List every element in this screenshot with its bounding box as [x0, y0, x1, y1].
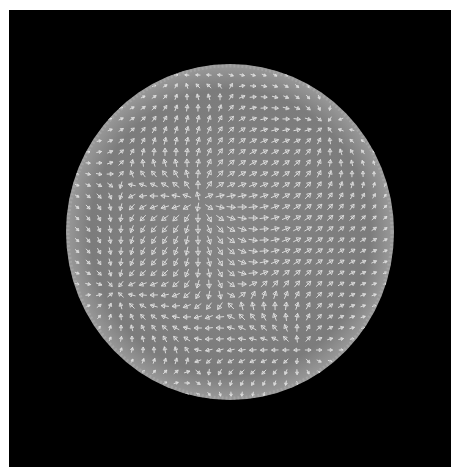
vector-field-sphere	[0, 0, 451, 475]
arrow-head-icon	[373, 151, 375, 153]
